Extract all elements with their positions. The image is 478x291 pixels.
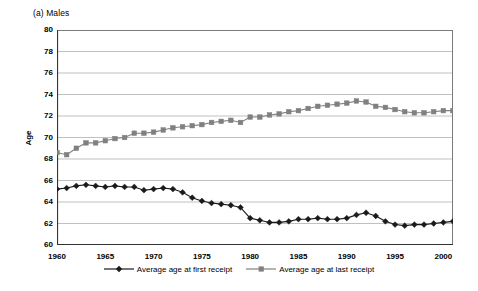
data-point-marker [344, 215, 350, 221]
data-point-marker [102, 184, 108, 190]
data-point-marker [229, 118, 234, 123]
y-tick-label: 62 [31, 220, 53, 228]
data-point-marker [296, 108, 301, 113]
x-tick-label: 1980 [241, 252, 259, 261]
data-point-marker [412, 110, 417, 115]
data-point-marker [421, 222, 427, 228]
data-point-marker [113, 136, 118, 141]
data-point-marker [257, 217, 263, 223]
data-point-marker [393, 107, 398, 112]
x-tick-label: 1960 [48, 252, 66, 261]
x-tick-label: 1965 [96, 252, 114, 261]
data-point-marker [84, 141, 89, 146]
data-point-marker [267, 113, 272, 118]
data-point-marker [73, 183, 79, 189]
legend-diamond-marker-icon [104, 264, 134, 274]
data-point-marker [160, 185, 166, 191]
data-point-marker [57, 186, 60, 192]
data-point-marker [315, 215, 321, 221]
data-point-marker [451, 108, 453, 113]
y-tick-label: 76 [31, 69, 53, 77]
data-point-marker [431, 221, 437, 227]
x-tick-label: 1990 [338, 252, 356, 261]
y-tick-label: 60 [31, 241, 53, 249]
data-point-marker [103, 138, 108, 143]
data-point-marker [373, 104, 378, 109]
y-tick-label: 72 [31, 112, 53, 120]
data-point-marker [325, 103, 330, 108]
data-point-marker [315, 104, 320, 109]
data-point-marker [151, 130, 156, 135]
y-tick-label: 70 [31, 134, 53, 142]
data-point-marker [228, 202, 234, 208]
data-point-marker [306, 106, 311, 111]
data-point-marker [141, 187, 147, 193]
data-point-marker [219, 119, 224, 124]
data-point-marker [422, 110, 427, 115]
x-tick-label: 1970 [145, 252, 163, 261]
data-point-marker [161, 128, 166, 133]
data-point-marker [122, 135, 127, 140]
data-point-marker [238, 120, 243, 125]
legend-square-marker-icon [246, 264, 276, 274]
data-point-marker [440, 220, 446, 226]
data-point-marker [190, 123, 195, 128]
data-point-marker [74, 146, 79, 151]
data-point-marker [248, 115, 253, 120]
data-point-marker [200, 122, 205, 127]
data-point-marker [199, 198, 205, 204]
data-point-marker [189, 195, 195, 201]
data-series [57, 182, 453, 229]
data-point-marker [267, 220, 273, 226]
y-tick-label: 78 [31, 48, 53, 56]
legend-item[interactable]: Average age at last receipt [246, 264, 374, 274]
data-series [57, 99, 453, 157]
data-point-marker [431, 109, 436, 114]
data-point-marker [122, 184, 128, 190]
data-point-marker [335, 102, 340, 107]
data-point-marker [209, 120, 214, 125]
data-point-marker [354, 99, 359, 104]
y-tick-label: 80 [31, 26, 53, 34]
x-tick-label: 2000 [434, 252, 452, 261]
panel-title: (a) Males [33, 8, 69, 18]
data-point-marker [64, 152, 69, 157]
data-point-marker [363, 210, 369, 216]
x-axis-ticks: 196019651970197519801985199019952000 [57, 250, 453, 264]
data-point-marker [112, 183, 118, 189]
data-point-marker [57, 150, 59, 155]
data-point-marker [373, 213, 379, 219]
data-point-marker [354, 212, 360, 218]
data-point-marker [93, 183, 99, 189]
data-point-marker [441, 108, 446, 113]
series-line [57, 185, 453, 226]
data-point-marker [132, 131, 137, 136]
data-point-marker [64, 185, 70, 191]
y-tick-label: 74 [31, 91, 53, 99]
x-tick-label: 1985 [290, 252, 308, 261]
data-point-marker [151, 186, 157, 192]
data-point-marker [364, 100, 369, 105]
plot-area [57, 30, 453, 245]
data-point-marker [93, 141, 98, 146]
legend-item[interactable]: Average age at first receipt [104, 264, 232, 274]
y-tick-label: 68 [31, 155, 53, 163]
data-point-marker [402, 109, 407, 114]
data-point-marker [170, 186, 176, 192]
data-point-marker [83, 182, 89, 188]
x-tick-label: 1995 [386, 252, 404, 261]
chart-figure: (a) Males Age 6062646668707274767880 196… [0, 0, 478, 291]
data-point-marker [344, 101, 349, 106]
data-point-marker [180, 124, 185, 129]
legend-label: Average age at first receipt [137, 265, 232, 274]
data-point-marker [296, 216, 302, 222]
data-point-marker [171, 126, 176, 131]
data-point-marker [180, 189, 186, 195]
data-point-marker [258, 115, 263, 120]
data-point-marker [305, 216, 311, 222]
x-tick-label: 1975 [193, 252, 211, 261]
data-point-marker [142, 131, 147, 136]
y-tick-label: 64 [31, 198, 53, 206]
data-point-marker [392, 222, 398, 228]
legend-label: Average age at last receipt [279, 265, 374, 274]
